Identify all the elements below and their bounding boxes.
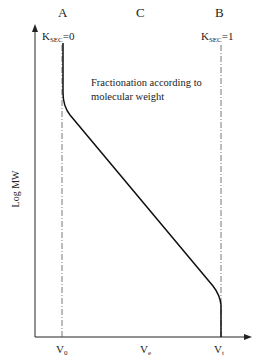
x-tick-v0: V0 <box>56 344 67 357</box>
region-label-a: A <box>58 6 67 19</box>
x-tick-ve: Ve <box>140 344 151 357</box>
region-label-c: C <box>136 6 145 19</box>
fractionation-annotation: Fractionation according to molecular wei… <box>91 76 202 104</box>
x-axis-arrow-icon <box>244 334 252 340</box>
ksec-0-label: KSEC=0 <box>42 31 75 44</box>
y-axis-arrow-icon <box>32 24 38 32</box>
x-tick-vt: Vt <box>214 344 224 357</box>
region-label-b: B <box>215 6 224 19</box>
ksec-1-label: KSEC=1 <box>201 31 234 44</box>
diagram-canvas <box>0 0 257 361</box>
y-axis-label: Log MW <box>11 171 21 208</box>
